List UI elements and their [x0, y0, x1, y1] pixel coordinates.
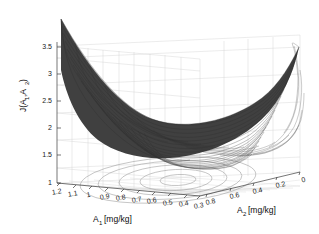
- figure-container: 1 1.5 2 2.5 3 3.5 1.2 1.1 1 0.9 0.8 0.7 …: [0, 0, 319, 234]
- x-tick-label: 0.9: [99, 192, 110, 200]
- z-tick-label: 3: [48, 70, 52, 77]
- z-tick-label: 3.5: [42, 43, 52, 50]
- y-tick-label: 0.6: [229, 191, 240, 200]
- surface-plot-svg: 1 1.5 2 2.5 3 3.5 1.2 1.1 1 0.9 0.8 0.7 …: [0, 0, 319, 234]
- z-axis-title-p4: ): [18, 79, 28, 82]
- x-tick-label: 0.8: [115, 193, 126, 201]
- y-axis-title-subscript: 2: [243, 211, 247, 217]
- x-tick-label: 1.2: [51, 187, 62, 195]
- z-axis-title-p2: ,A: [18, 89, 28, 97]
- x-axis-title: A 1 [mg/kg]: [93, 214, 132, 226]
- z-tick-label: 1: [48, 179, 52, 186]
- y-axis-title: A 2 [mg/kg]: [237, 205, 276, 217]
- y-tick-label: 0.8: [205, 197, 216, 206]
- z-tick-label: 2: [48, 124, 52, 131]
- x-tick-label: 1.1: [67, 189, 78, 197]
- z-tickmarks: [57, 47, 61, 183]
- z-axis-title: J(A 1 ,A 2 ): [18, 79, 30, 112]
- x-tick-label: 0.7: [131, 195, 142, 203]
- z-tick-label: 1.5: [42, 151, 52, 158]
- y-tick-label: 0: [301, 176, 306, 184]
- x-tick-label: 0.5: [162, 198, 173, 206]
- z-tick-label: 2.5: [42, 97, 52, 104]
- x-tick-label: 0.6: [146, 196, 157, 204]
- x-tick-label: 0.3: [193, 201, 204, 209]
- y-tick-label: 0.4: [252, 186, 263, 195]
- surface-fill: [61, 19, 299, 158]
- surface-mesh: [61, 19, 304, 169]
- x-axis-title-unit: [mg/kg]: [104, 214, 132, 224]
- x-axis-title-subscript: 1: [99, 220, 103, 226]
- y-tick-label: 0.2: [275, 180, 286, 189]
- y-axis-title-unit: [mg/kg]: [248, 205, 276, 215]
- x-tick-label: 0.4: [178, 199, 189, 207]
- z-tick-labels: 1 1.5 2 2.5 3 3.5: [42, 43, 52, 186]
- x-tick-label: 1: [86, 191, 91, 199]
